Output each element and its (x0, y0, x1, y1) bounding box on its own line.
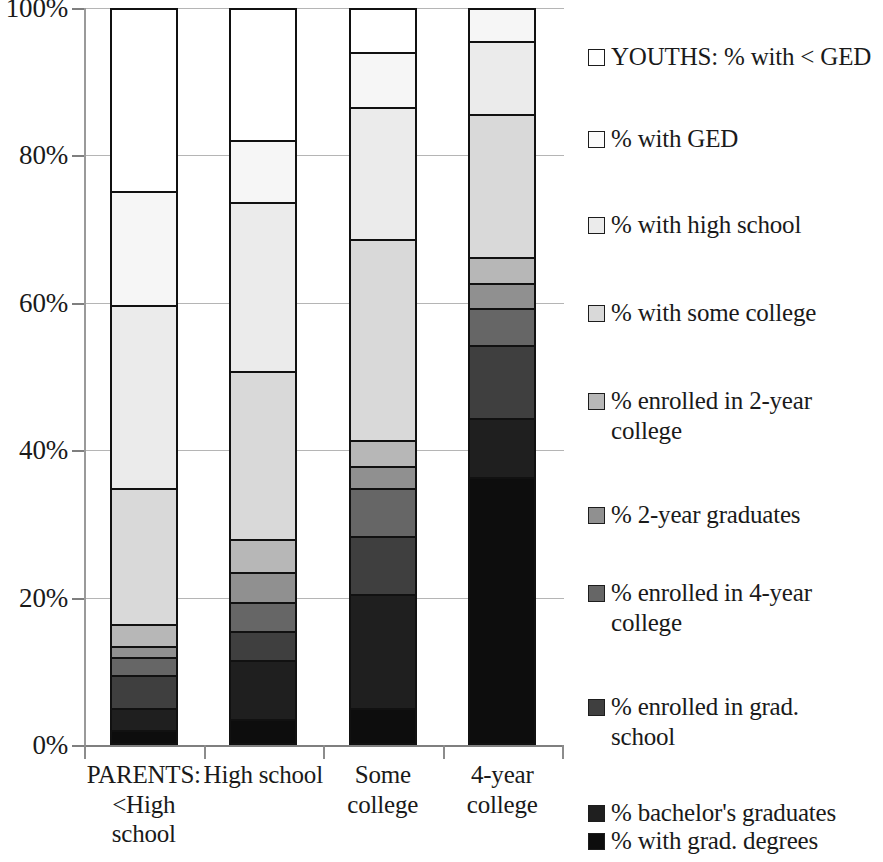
x-axis-tick-mark (443, 745, 445, 759)
legend-item[interactable]: % with some college (588, 298, 883, 328)
bar-segment[interactable] (470, 285, 534, 311)
chart-legend: YOUTHS: % with < GED% with GED% with hig… (588, 20, 883, 850)
legend-item-label: YOUTHS: % with < GED (611, 42, 871, 72)
legend-item-label: % with GED (611, 124, 738, 154)
x-axis-tick-mark (323, 745, 325, 759)
y-axis-tick-mark (72, 155, 84, 157)
x-axis-tick-mark (562, 745, 564, 759)
bar-segment[interactable] (112, 710, 176, 732)
x-axis-tick-mark (84, 745, 86, 759)
legend-item[interactable]: % enrolled in grad. school (588, 692, 883, 752)
bar-segment[interactable] (231, 541, 295, 574)
bar-slot (323, 8, 443, 745)
y-axis-tick-label: 80% (19, 142, 68, 169)
legend-swatch-icon (588, 805, 605, 822)
legend-item-label: % 2-year graduates (611, 500, 800, 530)
bar-segment[interactable] (470, 259, 534, 285)
y-axis-tick-mark (72, 8, 84, 10)
legend-item[interactable]: % enrolled in 4-year college (588, 578, 883, 638)
legend-item-label: % with some college (611, 298, 816, 328)
x-axis-label: PARENTS: <High school (84, 760, 204, 849)
bar-segment[interactable] (351, 490, 415, 538)
bar-segment[interactable] (470, 479, 534, 743)
bar-segment[interactable] (112, 193, 176, 307)
bar-segment[interactable] (112, 677, 176, 710)
plot-area: 100%80%60%40%20%0% PARENTS: <High school… (0, 0, 575, 862)
bar-slot (84, 8, 204, 745)
y-axis-tick-mark (72, 598, 84, 600)
legend-swatch-icon (588, 585, 605, 602)
bar-segment[interactable] (470, 310, 534, 347)
legend-item[interactable]: % enrolled in 2-year college (588, 386, 883, 446)
legend-item-label: % enrolled in 2-year college (611, 386, 812, 446)
legend-item[interactable]: % with high school (588, 210, 883, 240)
bar-segment[interactable] (351, 10, 415, 54)
legend-swatch-icon (588, 305, 605, 322)
bar-segment[interactable] (351, 109, 415, 241)
x-axis-label: Some college (323, 760, 443, 849)
bar-segment[interactable] (470, 116, 534, 259)
stacked-bar[interactable] (349, 8, 417, 745)
legend-item[interactable]: % with grad. degrees (588, 826, 883, 856)
stacked-bars (84, 8, 562, 745)
bar-segment[interactable] (351, 442, 415, 468)
chart-page: 100%80%60%40%20%0% PARENTS: <High school… (0, 0, 883, 862)
y-axis-tick-mark (72, 745, 84, 747)
bar-segment[interactable] (231, 604, 295, 633)
y-axis-tick-label: 60% (19, 289, 68, 316)
legend-swatch-icon (588, 699, 605, 716)
bar-segment[interactable] (351, 596, 415, 710)
bar-segment[interactable] (351, 538, 415, 597)
legend-item-label: % with grad. degrees (611, 826, 818, 856)
bar-segment[interactable] (231, 721, 295, 743)
bar-segment[interactable] (351, 468, 415, 490)
stacked-bar[interactable] (468, 8, 536, 745)
x-axis-tick-mark (204, 745, 206, 759)
x-axis-ticks (84, 745, 562, 759)
bar-segment[interactable] (231, 204, 295, 373)
y-axis-tick-label: 40% (19, 437, 68, 464)
bar-segment[interactable] (112, 659, 176, 677)
bar-segment[interactable] (470, 10, 534, 43)
bar-segment[interactable] (231, 373, 295, 542)
bar-segment[interactable] (351, 54, 415, 109)
bar-segment[interactable] (112, 732, 176, 743)
stacked-bar[interactable] (229, 8, 297, 745)
stacked-bar[interactable] (110, 8, 178, 745)
legend-swatch-icon (588, 507, 605, 524)
bar-segment[interactable] (112, 490, 176, 626)
legend-swatch-icon (588, 393, 605, 410)
y-axis-tick-label: 0% (32, 732, 68, 759)
legend-item-label: % enrolled in 4-year college (611, 578, 812, 638)
bar-segment[interactable] (112, 648, 176, 659)
bar-segment[interactable] (231, 142, 295, 204)
bar-segment[interactable] (112, 307, 176, 490)
bar-segment[interactable] (231, 633, 295, 662)
y-axis-tick-mark (72, 303, 84, 305)
bar-segment[interactable] (231, 662, 295, 721)
legend-item[interactable]: YOUTHS: % with < GED (588, 42, 883, 72)
bar-segment[interactable] (112, 626, 176, 648)
bar-slot (204, 8, 324, 745)
y-axis: 100%80%60%40%20%0% (0, 0, 72, 755)
legend-item-label: % with high school (611, 210, 801, 240)
legend-item[interactable]: % bachelor's graduates (588, 798, 883, 828)
bar-segment[interactable] (470, 43, 534, 116)
bar-segment[interactable] (470, 347, 534, 420)
legend-item[interactable]: % with GED (588, 124, 883, 154)
bar-segment[interactable] (351, 710, 415, 743)
bar-slot (443, 8, 563, 745)
y-axis-tick-label: 20% (19, 584, 68, 611)
bar-segment[interactable] (112, 10, 176, 193)
y-axis-tick-label: 100% (6, 0, 68, 22)
bar-segment[interactable] (351, 241, 415, 443)
x-axis-label: High school (204, 760, 324, 849)
bar-segment[interactable] (470, 420, 534, 479)
legend-swatch-icon (588, 131, 605, 148)
legend-item[interactable]: % 2-year graduates (588, 500, 883, 530)
y-axis-tick-mark (72, 450, 84, 452)
bar-segment[interactable] (231, 10, 295, 142)
bar-segment[interactable] (231, 574, 295, 603)
x-axis-label: 4-year college (443, 760, 563, 849)
legend-item-label: % bachelor's graduates (611, 798, 836, 828)
